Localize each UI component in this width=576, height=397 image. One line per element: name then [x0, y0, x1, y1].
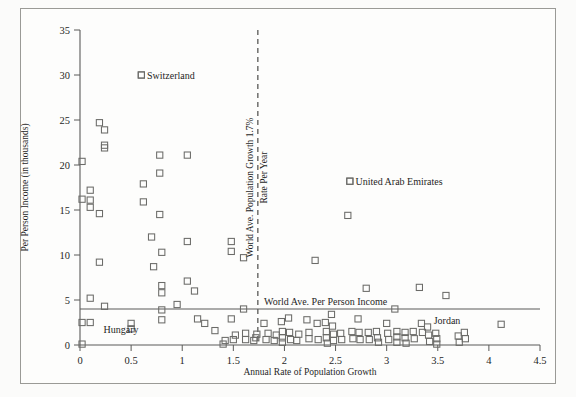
data-point [159, 283, 165, 289]
data-point [306, 329, 312, 335]
data-point [148, 234, 154, 240]
data-point [265, 330, 271, 336]
annotation-label-switzerland: Switzerland [147, 70, 195, 81]
data-point [410, 328, 416, 334]
data-point [263, 337, 269, 343]
data-point [385, 330, 391, 336]
x-tick-label: 2.5 [329, 355, 342, 366]
data-point [279, 328, 285, 334]
data-point [87, 187, 93, 193]
y-tick-label: 25 [60, 115, 71, 126]
data-point [157, 152, 163, 158]
data-point [427, 338, 433, 344]
y-axis-title: Per Person Income (in thousands) [20, 123, 31, 251]
data-point [425, 332, 431, 338]
x-tick-label: 4.5 [533, 355, 546, 366]
data-point [322, 319, 328, 325]
data-point [462, 336, 468, 342]
data-point [140, 181, 146, 187]
x-tick-label: 1.5 [227, 355, 240, 366]
data-point [356, 329, 362, 335]
data-point [228, 248, 234, 254]
data-point [330, 331, 336, 337]
data-point [498, 321, 504, 327]
data-point [159, 307, 165, 313]
data-point [329, 323, 335, 329]
data-point [306, 336, 312, 342]
data-point [339, 337, 345, 343]
data-point [285, 315, 291, 321]
y-tick-label: 15 [60, 205, 71, 216]
x-axis-title: Annual Rate of Population Growth [244, 367, 377, 377]
data-point [157, 211, 163, 217]
data-point [461, 329, 467, 335]
data-point [443, 292, 449, 298]
data-point [328, 311, 334, 317]
y-tick-label: 10 [60, 250, 71, 261]
x-tick-label: 0 [77, 355, 82, 366]
data-point [243, 330, 249, 336]
x-tick-label: 3 [384, 355, 389, 366]
data-point [140, 199, 146, 205]
data-point [138, 72, 144, 78]
data-point [228, 238, 234, 244]
data-point [365, 329, 371, 335]
plot-canvas: 0510152025303500.511.522.533.544.5World … [0, 0, 576, 397]
data-point [159, 290, 165, 296]
data-point [386, 337, 392, 343]
data-point [323, 328, 329, 334]
data-point [157, 170, 163, 176]
data-point [366, 337, 372, 343]
data-point [87, 319, 93, 325]
data-point [418, 320, 424, 326]
scatter-plot-figure: 0510152025303500.511.522.533.544.5World … [0, 0, 576, 397]
x-tick-label: 3.5 [431, 355, 444, 366]
data-point [455, 333, 461, 339]
data-point [174, 301, 180, 307]
data-point [228, 316, 234, 322]
y-tick-label: 5 [65, 295, 70, 306]
data-point [87, 197, 93, 203]
annotation-label-united-arab-emirates: United Arab Emirates [355, 176, 442, 187]
data-point [184, 278, 190, 284]
data-point [184, 238, 190, 244]
data-point [384, 320, 390, 326]
data-point [357, 337, 363, 343]
data-point [345, 212, 351, 218]
data-point [96, 259, 102, 265]
annotation-marker-switzerland [138, 72, 144, 78]
reference-label-rate-per-year: Rate Per Year [259, 151, 269, 204]
data-point [159, 317, 165, 323]
data-point [279, 335, 285, 341]
data-point [338, 330, 344, 336]
data-point [261, 320, 267, 326]
data-point [101, 127, 107, 133]
data-point [191, 288, 197, 294]
annotation-label-hungary: Hungary [104, 324, 139, 335]
data-point [416, 284, 422, 290]
data-point [87, 295, 93, 301]
data-point [287, 337, 293, 343]
x-tick-label: 0.5 [125, 355, 138, 366]
data-point [184, 152, 190, 158]
data-point [159, 249, 165, 255]
y-tick-label: 0 [65, 340, 70, 351]
data-point [232, 332, 238, 338]
data-point [230, 337, 236, 343]
data-point [330, 337, 336, 343]
data-point [315, 337, 321, 343]
data-point [355, 316, 361, 322]
data-point [202, 320, 208, 326]
data-point [296, 331, 302, 337]
data-point [278, 319, 284, 325]
data-point [314, 320, 320, 326]
data-point [349, 328, 355, 334]
data-point [363, 285, 369, 291]
data-point [294, 337, 300, 343]
data-point [87, 204, 93, 210]
data-point [304, 317, 310, 323]
annotation-marker-united-arab-emirates [347, 178, 353, 184]
data-point [347, 178, 353, 184]
data-point [373, 328, 379, 334]
data-point [151, 264, 157, 270]
